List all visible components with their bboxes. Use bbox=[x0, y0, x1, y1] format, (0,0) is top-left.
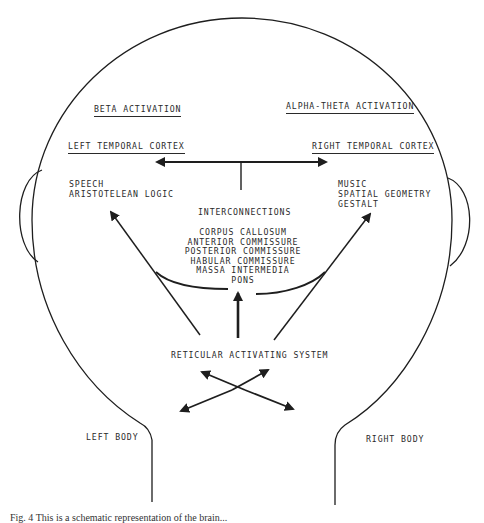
right-body-label: RIGHT BODY bbox=[366, 434, 424, 444]
function-aristotelean-logic: ARISTOTELEAN LOGIC bbox=[69, 189, 174, 199]
left-functions-list: SPEECH ARISTOTELEAN LOGIC bbox=[69, 179, 174, 199]
cortex-double-arrow bbox=[157, 162, 326, 190]
interconnections-list: CORPUS CALLOSUM ANTERIOR COMMISSURE POST… bbox=[178, 228, 308, 285]
interconnections-title: INTERCONNECTIONS bbox=[198, 207, 291, 217]
crossed-arrows bbox=[181, 370, 293, 411]
reticular-activating-system-label: RETICULAR ACTIVATING SYSTEM bbox=[171, 350, 328, 360]
left-body-label: LEFT BODY bbox=[86, 432, 138, 442]
beta-activation-label: BETA ACTIVATION bbox=[94, 104, 181, 117]
right-temporal-cortex-label: RIGHT TEMPORAL CORTEX bbox=[312, 141, 434, 154]
figure-caption: Fig. 4 This is a schematic representatio… bbox=[10, 512, 227, 523]
function-music: MUSIC bbox=[338, 179, 431, 189]
left-temporal-cortex-label: LEFT TEMPORAL CORTEX bbox=[68, 141, 185, 154]
function-speech: SPEECH bbox=[69, 179, 174, 189]
left-ear bbox=[20, 170, 42, 262]
interconnect-pons: PONS bbox=[178, 276, 308, 286]
right-ear bbox=[448, 178, 470, 266]
function-gestalt: GESTALT bbox=[338, 199, 431, 209]
function-spatial-geometry: SPATIAL GEOMETRY bbox=[338, 189, 431, 199]
right-functions-list: MUSIC SPATIAL GEOMETRY GESTALT bbox=[338, 179, 431, 209]
alpha-theta-activation-label: ALPHA-THETA ACTIVATION bbox=[286, 101, 414, 114]
